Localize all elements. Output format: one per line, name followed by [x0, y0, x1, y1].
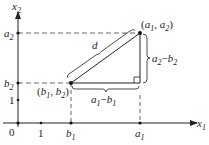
x-tick-1-label: 1: [38, 127, 44, 139]
tick-x1: [40, 122, 43, 125]
point-a-label: (a1, a2): [141, 18, 173, 33]
x-tick-b1-label: b1: [66, 127, 76, 142]
x-tick-a1-label: a1: [135, 127, 145, 142]
tick-a2: [16, 31, 19, 34]
distance-brace: [67, 30, 135, 78]
point-b-label: (b1, b2): [37, 85, 69, 100]
tick-b2: [16, 81, 19, 84]
point-b: [69, 81, 73, 85]
y-tick-b2-label: b2: [4, 77, 14, 92]
y-tick-a2-label: a2: [4, 27, 14, 42]
vertical-brace: [143, 34, 150, 83]
origin-label: 0: [9, 126, 15, 138]
right-angle-mark: [134, 77, 140, 83]
tick-y1: [17, 99, 20, 102]
point-a: [138, 31, 142, 35]
x-axis-label: x1: [196, 117, 206, 132]
horizontal-brace-label: a1−b1: [91, 93, 116, 108]
y-axis-label: x2: [11, 0, 21, 15]
distance-label: d: [92, 39, 98, 51]
tick-origin: [16, 121, 19, 124]
tick-a1: [138, 121, 141, 124]
vertical-brace-label: a2−b2: [152, 52, 177, 67]
horizontal-brace: [72, 86, 139, 92]
distance-formula-diagram: x1 x2 d a1−b1 a2−b2 (a1, a2) (b1, b2) a2…: [0, 0, 209, 145]
hypotenuse: [71, 33, 140, 83]
tick-b1: [69, 121, 72, 124]
y-tick-1-label: 1: [9, 94, 15, 106]
